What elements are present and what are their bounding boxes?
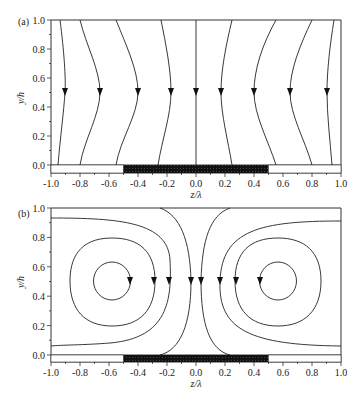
svg-text:1.0: 1.0: [33, 15, 46, 26]
svg-text:0.0: 0.0: [190, 367, 203, 378]
svg-text:0.6: 0.6: [277, 178, 290, 189]
panel-b-streamlines: [51, 208, 341, 355]
panel-a-x-tick-labels: -1.0 -0.8 -0.6 -0.4 -0.2 0.0 0.2 0.4 0.6…: [43, 178, 347, 189]
figure: (a) 0.0 0.2 0.4 0.6 0.8 1.0 y/h: [0, 0, 361, 403]
right-separatrix: [201, 208, 230, 355]
svg-text:-0.4: -0.4: [130, 178, 146, 189]
svg-text:0.2: 0.2: [219, 178, 232, 189]
panel-a-x-ticks: [51, 173, 341, 177]
svg-text:1.0: 1.0: [33, 203, 46, 214]
svg-text:1.0: 1.0: [335, 178, 348, 189]
arrow-down-icon: [251, 88, 257, 96]
right-vortex-outer: [220, 221, 341, 346]
panel-b-y-ticks: [47, 208, 51, 355]
svg-text:0.6: 0.6: [33, 73, 46, 84]
svg-text:0.8: 0.8: [306, 178, 319, 189]
arrow-down-icon: [135, 88, 141, 96]
svg-text:0.4: 0.4: [248, 178, 261, 189]
left-separatrix: [160, 208, 191, 355]
panel-a-x-axis-label: z/λ: [189, 189, 202, 200]
arrow-down-icon: [217, 277, 223, 285]
panel-b-x-ticks: [51, 362, 341, 366]
svg-text:-0.6: -0.6: [101, 178, 117, 189]
svg-text:-1.0: -1.0: [43, 367, 59, 378]
panel-b-bar-black: [124, 355, 269, 362]
svg-text:-0.2: -0.2: [159, 178, 175, 189]
panel-b-x-tick-labels: -1.0 -0.8 -0.6 -0.4 -0.2 0.0 0.2 0.4 0.6…: [43, 367, 347, 378]
panel-a-y-tick-labels: 0.0 0.2 0.4 0.6 0.8 1.0: [33, 15, 46, 171]
panel-b-bar-white-right: [269, 355, 342, 362]
svg-text:-0.8: -0.8: [72, 178, 88, 189]
arrow-down-icon: [218, 88, 224, 96]
svg-text:0.4: 0.4: [248, 367, 261, 378]
svg-text:0.8: 0.8: [33, 232, 46, 243]
arrow-down-icon: [257, 277, 263, 285]
panel-a-label: (a): [18, 16, 29, 28]
panel-a-bar-white-left: [51, 165, 124, 173]
svg-text:0.8: 0.8: [33, 44, 46, 55]
arrow-down-icon: [287, 88, 293, 96]
panel-a: (a) 0.0 0.2 0.4 0.6 0.8 1.0 y/h: [15, 15, 347, 200]
left-vortex-inner: [94, 262, 131, 300]
panel-a-bar-black: [124, 165, 269, 173]
panel-a-arrows: [62, 88, 330, 96]
arrow-down-icon: [127, 277, 133, 285]
svg-text:-0.8: -0.8: [72, 367, 88, 378]
svg-text:1.0: 1.0: [335, 367, 348, 378]
arrow-down-icon: [188, 277, 194, 285]
panel-b-x-axis-label: z/λ: [189, 378, 202, 389]
svg-text:-0.2: -0.2: [159, 367, 175, 378]
left-vortex-outer: [51, 218, 170, 346]
panel-b-bar-white-left: [51, 355, 124, 362]
svg-text:0.2: 0.2: [33, 131, 46, 142]
svg-text:0.0: 0.0: [33, 160, 46, 171]
right-vortex-inner: [260, 262, 297, 300]
arrow-down-icon: [151, 277, 157, 285]
arrow-down-icon: [168, 88, 174, 96]
panel-a-y-ticks: [47, 20, 51, 165]
svg-text:0.2: 0.2: [219, 367, 232, 378]
svg-text:0.6: 0.6: [33, 262, 46, 273]
panel-b: (b) 0.0 0.2 0.4 0.6 0.8 1.0 y/h: [15, 203, 347, 389]
svg-text:0.0: 0.0: [190, 178, 203, 189]
left-vortex-middle: [70, 238, 155, 326]
arrow-down-icon: [166, 277, 172, 285]
svg-text:0.8: 0.8: [306, 367, 319, 378]
arrow-down-icon: [198, 277, 204, 285]
svg-text:0.4: 0.4: [33, 102, 46, 113]
panel-b-y-axis-label: y/h: [15, 276, 26, 289]
right-vortex-middle: [235, 238, 321, 326]
panel-b-arrows: [127, 277, 263, 285]
arrow-down-icon: [193, 88, 199, 96]
panel-b-y-tick-labels: 0.0 0.2 0.4 0.6 0.8 1.0: [33, 203, 46, 361]
svg-text:-1.0: -1.0: [43, 178, 59, 189]
panel-a-y-axis-label: y/h: [15, 92, 26, 105]
arrow-down-icon: [62, 88, 68, 96]
svg-text:0.6: 0.6: [277, 367, 290, 378]
arrow-down-icon: [233, 277, 239, 285]
svg-text:-0.4: -0.4: [130, 367, 146, 378]
svg-text:0.0: 0.0: [33, 350, 46, 361]
panel-a-bar-white-right: [269, 165, 342, 173]
panel-b-label: (b): [18, 208, 30, 220]
svg-text:0.2: 0.2: [33, 321, 46, 332]
arrow-down-icon: [324, 88, 330, 96]
svg-text:0.4: 0.4: [33, 291, 46, 302]
svg-text:-0.6: -0.6: [101, 367, 117, 378]
arrow-down-icon: [97, 88, 103, 96]
